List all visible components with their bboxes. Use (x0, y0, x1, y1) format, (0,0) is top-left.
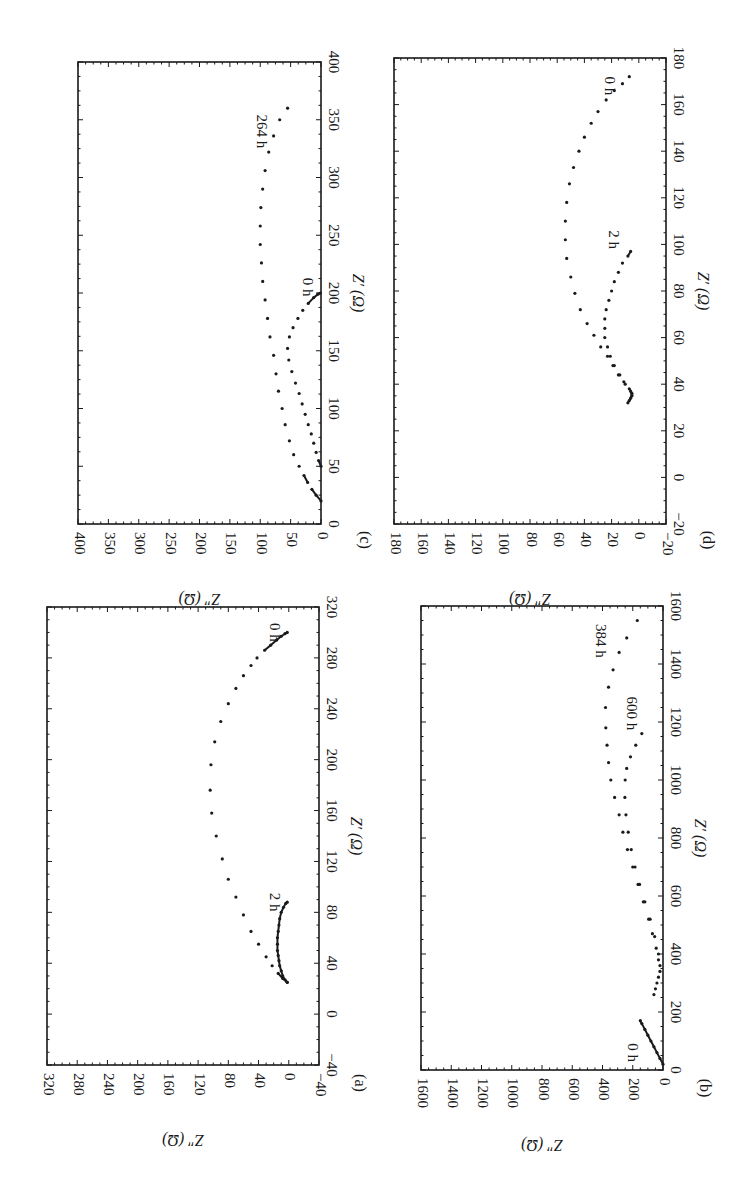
y-axis-title: Z″ (Ω) (521, 1136, 563, 1154)
x-tick-label: 60 (671, 330, 687, 345)
panel-label: (b) (696, 1079, 714, 1098)
y-tick-label: −40 (313, 1073, 329, 1096)
series-annotation: 2 h (267, 893, 283, 912)
y-tick-label: 0 (315, 532, 331, 540)
y-tick-label: 250 (163, 532, 179, 555)
x-tick-label: 0 (326, 520, 342, 528)
x-tick-label: 800 (668, 827, 684, 850)
y-tick-label: 100 (496, 532, 512, 555)
y-tick-label: 400 (72, 532, 88, 555)
panel-d: −20020406080100120140160180Z′ (Ω)−200204… (388, 47, 717, 608)
y-tick-label: 120 (469, 532, 485, 555)
series-384h (604, 619, 662, 996)
y-tick-label: 0 (282, 1073, 298, 1081)
panel-label: (a) (351, 1074, 369, 1092)
series-annotation: 0 h (602, 77, 618, 96)
x-tick-label: 200 (668, 1001, 684, 1024)
series-annotation: 2 h (606, 230, 622, 249)
series-annotation: 264 h (254, 114, 270, 148)
y-tick-label: 60 (551, 532, 567, 547)
y-tick-label: 280 (71, 1073, 87, 1096)
x-tick-label: 280 (324, 647, 340, 670)
x-tick-label: 240 (324, 698, 340, 721)
x-axis-title: Z′ (Ω) (349, 274, 367, 313)
x-tick-label: 1400 (668, 649, 684, 679)
x-tick-label: 600 (668, 885, 684, 908)
series-2h (276, 901, 289, 984)
y-tick-label: 40 (578, 532, 594, 547)
x-tick-label: 120 (671, 187, 687, 210)
y-tick-label: 0 (657, 1078, 673, 1086)
y-tick-label: 200 (626, 1078, 642, 1101)
x-tick-label: 100 (671, 233, 687, 256)
panel-a: −4004080120160200240280320Z′ (Ω)−4004080… (41, 596, 369, 1149)
x-tick-label: 180 (671, 47, 687, 70)
x-tick-label: 200 (326, 282, 342, 305)
plot-frame (394, 58, 666, 524)
x-tick-label: 300 (326, 166, 342, 189)
x-tick-label: 1600 (668, 591, 684, 621)
x-tick-label: 120 (324, 850, 340, 873)
x-tick-label: 1200 (668, 707, 684, 737)
panel-label: (c) (356, 531, 374, 549)
y-tick-label: 0 (632, 532, 648, 540)
y-axis-title: Z″ (Ω) (509, 590, 551, 608)
y-tick-label: 20 (605, 532, 621, 547)
series-annotation: 600 h (624, 696, 640, 730)
y-tick-label: 80 (222, 1073, 238, 1088)
x-tick-label: 400 (326, 51, 342, 74)
x-tick-label: 350 (326, 109, 342, 132)
y-tick-label: 40 (252, 1073, 268, 1088)
x-tick-label: 400 (668, 943, 684, 966)
x-tick-label: 0 (324, 1010, 340, 1018)
y-tick-label: 1200 (475, 1078, 491, 1108)
y-tick-label: 1400 (445, 1078, 461, 1108)
x-tick-label: 20 (671, 423, 687, 438)
series-annotation: 0 h (300, 278, 316, 297)
y-tick-label: 320 (41, 1073, 57, 1096)
y-tick-label: 50 (284, 532, 300, 547)
y-tick-label: 140 (442, 532, 458, 555)
y-tick-label: 240 (101, 1073, 117, 1096)
figure-stage: −4004080120160200240280320Z′ (Ω)−4004080… (0, 0, 755, 1202)
y-tick-label: 160 (415, 532, 431, 555)
x-axis-title: Z′ (Ω) (691, 819, 709, 858)
y-tick-label: 300 (132, 532, 148, 555)
panel-c: 050100150200250300350400Z′ (Ω)0501001502… (72, 51, 374, 608)
x-tick-label: 160 (671, 93, 687, 116)
y-axis-title: Z″ (Ω) (162, 1131, 204, 1149)
y-tick-label: 200 (193, 532, 209, 555)
impedance-figure: −4004080120160200240280320Z′ (Ω)−4004080… (0, 0, 755, 1202)
series-600h (623, 732, 661, 990)
x-tick-label: 140 (671, 140, 687, 163)
series-annotation: 0 h (267, 623, 283, 642)
x-tick-label: 0 (668, 1066, 684, 1074)
x-tick-label: 100 (326, 397, 342, 420)
series-2h (603, 250, 633, 402)
x-tick-label: 250 (326, 224, 342, 247)
plot-frame (78, 62, 321, 524)
y-tick-label: 100 (254, 532, 270, 555)
x-tick-label: 150 (326, 340, 342, 363)
x-axis-title: Z′ (Ω) (347, 817, 365, 856)
y-tick-label: 1000 (505, 1078, 521, 1108)
y-tick-label: 400 (596, 1078, 612, 1101)
x-tick-label: 200 (324, 748, 340, 771)
x-tick-label: 160 (324, 799, 340, 822)
x-tick-label: 1000 (668, 765, 684, 795)
x-axis-title: Z′ (Ω) (694, 272, 712, 311)
x-tick-label: 50 (326, 459, 342, 474)
y-tick-label: 80 (524, 532, 540, 547)
y-axis-title: Z″ (Ω) (179, 590, 221, 608)
y-tick-label: 180 (388, 532, 404, 555)
x-tick-label: 0 (671, 474, 687, 482)
series-0h (564, 75, 634, 404)
series-0h (286, 291, 323, 467)
y-tick-label: 150 (223, 532, 239, 555)
y-tick-label: 120 (192, 1073, 208, 1096)
plot-frame (421, 606, 663, 1070)
y-tick-label: 1600 (415, 1078, 431, 1108)
y-tick-label: 160 (161, 1073, 177, 1096)
series-annotation: 384 h (593, 624, 609, 658)
y-tick-label: 600 (566, 1078, 582, 1101)
